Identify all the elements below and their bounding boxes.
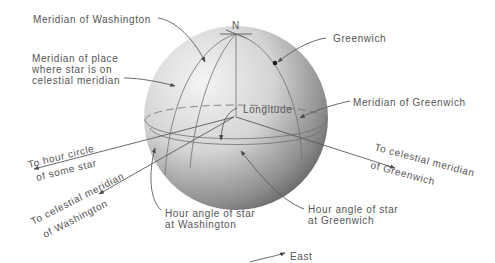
label-meridian-washington: Meridian of Washington: [33, 14, 151, 25]
celestial-sphere-diagram: N Meridian of Washington Meridian of pla…: [0, 0, 495, 263]
label-ha-greenwich-1: Hour angle of star: [308, 204, 398, 215]
label-east: East: [290, 251, 312, 262]
label-greenwich: Greenwich: [333, 33, 386, 44]
greenwich-dot: [273, 61, 278, 66]
label-ha-washington-1: Hour angle of star: [165, 208, 255, 219]
label-ha-washington-2: at Washington: [165, 219, 236, 230]
label-meridian-place-2: where star is on: [31, 64, 112, 75]
label-ha-greenwich-2: at Greenwich: [308, 215, 374, 226]
label-longitude: Longitude: [243, 104, 292, 115]
label-meridian-greenwich: Meridian of Greenwich: [353, 97, 466, 108]
label-meridian-place-1: Meridian of place: [32, 53, 118, 64]
north-label: N: [232, 20, 240, 31]
label-meridian-place-3: celestial meridian: [32, 75, 120, 86]
east-arrow: [250, 253, 285, 262]
